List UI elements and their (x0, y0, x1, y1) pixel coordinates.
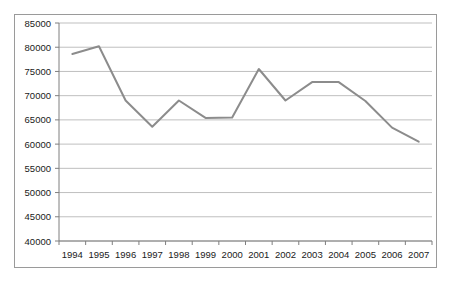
y-axis-tick-label: 55000 (25, 163, 51, 174)
line-chart-figure: 4000045000500005500060000650007000075000… (0, 0, 451, 286)
x-axis-tick-label: 2005 (355, 249, 376, 260)
x-axis-tick-label: 1997 (142, 249, 163, 260)
y-axis-tick-label: 70000 (25, 90, 51, 101)
x-axis-tick-label: 2000 (222, 249, 243, 260)
x-axis-tick-label: 2004 (328, 249, 349, 260)
chart-plot-area: 4000045000500005500060000650007000075000… (15, 15, 436, 267)
y-axis-tick-label: 40000 (25, 236, 51, 247)
gridlines-group (59, 23, 432, 241)
y-axis-tick-label: 80000 (25, 42, 51, 53)
x-axis-tick-label: 1995 (88, 249, 109, 260)
x-axis-ticks-group (59, 241, 432, 245)
y-axis-tick-label: 65000 (25, 114, 51, 125)
x-axis-tick-label: 2002 (275, 249, 296, 260)
data-series-line (72, 46, 418, 141)
chart-outer-border: 4000045000500005500060000650007000075000… (14, 14, 437, 268)
y-axis-ticks-group (55, 23, 59, 241)
y-axis-tick-label: 75000 (25, 66, 51, 77)
x-axis-tick-label: 2001 (248, 249, 269, 260)
y-axis-tick-label: 45000 (25, 211, 51, 222)
y-axis-tick-labels-group: 4000045000500005500060000650007000075000… (25, 18, 51, 247)
x-axis-tick-label: 2007 (408, 249, 429, 260)
y-axis-tick-label: 85000 (25, 18, 51, 29)
x-axis-tick-label: 1999 (195, 249, 216, 260)
x-axis-tick-labels-group: 1994199519961997199819992000200120022003… (62, 249, 429, 260)
x-axis-tick-label: 1994 (62, 249, 83, 260)
y-axis-tick-label: 50000 (25, 187, 51, 198)
x-axis-tick-label: 1998 (168, 249, 189, 260)
y-axis-tick-label: 60000 (25, 139, 51, 150)
x-axis-tick-label: 2006 (381, 249, 402, 260)
x-axis-tick-label: 1996 (115, 249, 136, 260)
x-axis-tick-label: 2003 (302, 249, 323, 260)
